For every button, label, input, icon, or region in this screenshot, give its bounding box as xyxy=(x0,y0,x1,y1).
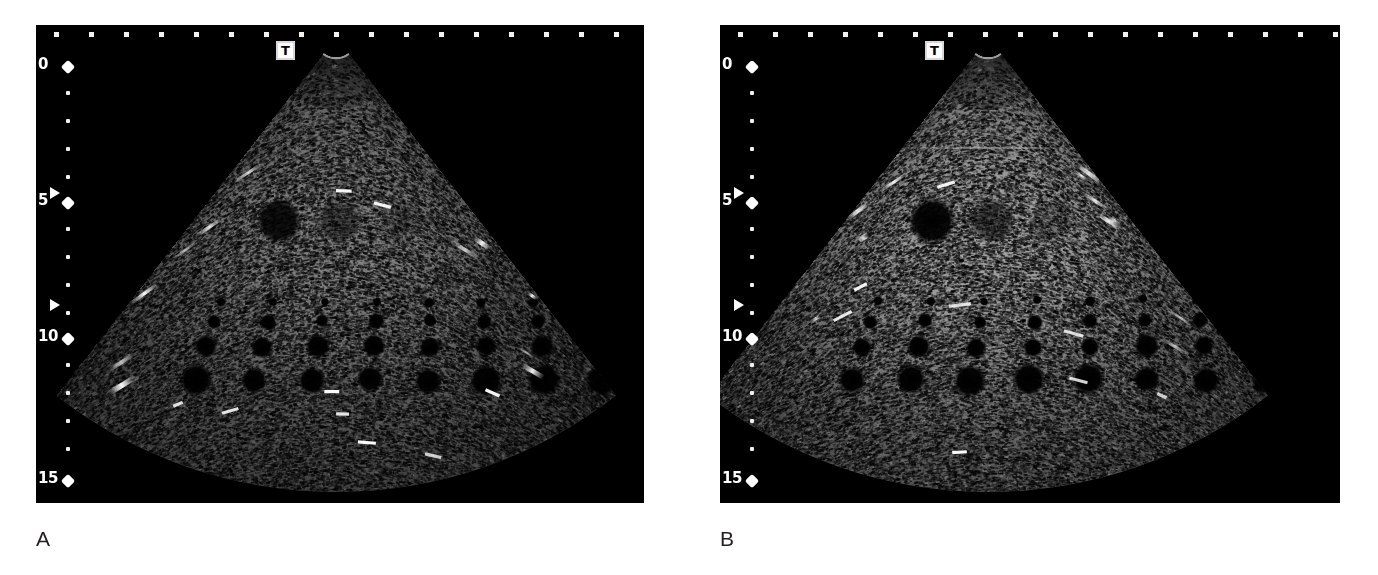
depth-tick xyxy=(66,311,70,315)
focal-zone-marker-icon xyxy=(50,187,60,199)
depth-tick xyxy=(66,91,70,95)
depth-tick xyxy=(750,147,754,151)
depth-major-tick xyxy=(745,60,759,74)
depth-label: 15 xyxy=(722,471,742,486)
focal-zone-marker-icon xyxy=(50,299,60,311)
depth-tick xyxy=(66,391,70,395)
depth-tick xyxy=(66,175,70,179)
depth-tick xyxy=(66,419,70,423)
depth-tick xyxy=(66,447,70,451)
transducer-marker-icon-a: T xyxy=(276,41,295,60)
depth-scale-a: 051015 xyxy=(36,25,98,503)
depth-major-tick xyxy=(745,332,759,346)
depth-tick xyxy=(750,91,754,95)
depth-major-tick xyxy=(745,474,759,488)
depth-tick xyxy=(750,419,754,423)
ultrasound-image-b xyxy=(720,25,1340,503)
depth-major-tick xyxy=(61,332,75,346)
depth-label: 15 xyxy=(38,471,58,486)
depth-tick xyxy=(750,447,754,451)
figure-root: 051015 T 051015 T A B xyxy=(0,0,1378,575)
depth-major-tick xyxy=(61,60,75,74)
depth-label: 10 xyxy=(722,329,742,344)
depth-tick xyxy=(750,391,754,395)
depth-scale-b: 051015 xyxy=(720,25,782,503)
depth-tick xyxy=(66,283,70,287)
depth-label: 5 xyxy=(38,193,48,208)
panel-label-row: A B xyxy=(0,528,1378,568)
depth-tick xyxy=(750,227,754,231)
depth-tick xyxy=(66,119,70,123)
depth-tick xyxy=(750,119,754,123)
depth-tick xyxy=(750,175,754,179)
depth-tick xyxy=(66,255,70,259)
panel-label-b: B xyxy=(720,528,734,549)
depth-label: 10 xyxy=(38,329,58,344)
depth-tick xyxy=(750,283,754,287)
focal-zone-marker-icon xyxy=(734,299,744,311)
depth-major-tick xyxy=(61,196,75,210)
ultrasound-panel-b[interactable]: 051015 T xyxy=(720,25,1340,503)
transducer-marker-icon-b: T xyxy=(925,41,944,60)
focal-zone-marker-icon xyxy=(734,187,744,199)
depth-tick xyxy=(750,363,754,367)
depth-tick xyxy=(750,255,754,259)
depth-label: 0 xyxy=(722,57,732,72)
ultrasound-image-a xyxy=(36,25,644,503)
depth-tick xyxy=(750,311,754,315)
depth-major-tick xyxy=(745,196,759,210)
ultrasound-panel-a[interactable]: 051015 T xyxy=(36,25,644,503)
depth-label: 5 xyxy=(722,193,732,208)
depth-label: 0 xyxy=(38,57,48,72)
depth-tick xyxy=(66,227,70,231)
depth-tick xyxy=(66,147,70,151)
depth-tick xyxy=(66,363,70,367)
panel-label-a: A xyxy=(36,528,50,549)
depth-major-tick xyxy=(61,474,75,488)
